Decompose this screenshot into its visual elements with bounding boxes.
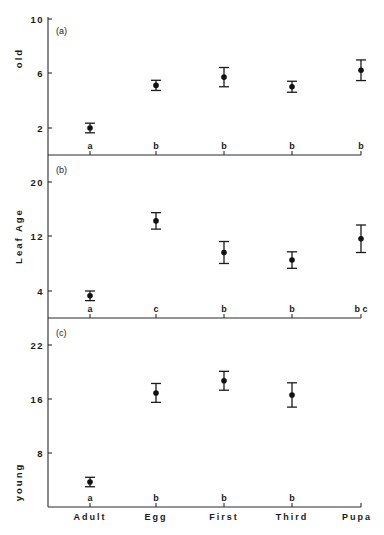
mean-marker xyxy=(153,83,159,89)
x-category-label: Egg xyxy=(145,512,168,522)
panel-b: 41220(b)Leaf Ageacbbb c xyxy=(13,155,368,318)
x-category-label: Adult xyxy=(74,512,107,522)
y-axis-title: young xyxy=(13,463,24,502)
x-axis-category-labels: AdultEggFirstThirdPupa xyxy=(74,512,373,522)
significance-letter: a xyxy=(87,304,93,314)
y-tick-label: 20 xyxy=(30,177,44,188)
mean-marker xyxy=(289,392,295,398)
y-tick-label: 8 xyxy=(37,448,44,459)
data-point xyxy=(219,371,229,390)
y-tick-label: 4 xyxy=(37,286,44,297)
data-point xyxy=(356,225,366,253)
mean-marker xyxy=(289,84,295,90)
significance-letter: b xyxy=(153,493,159,503)
panel-c: 81622(c)youngabbb xyxy=(13,318,361,507)
significance-letter: b xyxy=(221,141,227,151)
y-tick-label: 10 xyxy=(30,14,44,25)
mean-marker xyxy=(221,378,227,384)
data-point xyxy=(151,213,161,230)
data-point xyxy=(85,123,95,133)
mean-marker xyxy=(153,390,159,396)
mean-marker xyxy=(153,218,159,224)
x-category-label: Third xyxy=(276,512,309,522)
y-tick-label: 22 xyxy=(30,340,44,351)
significance-letter: b xyxy=(358,141,364,151)
data-point xyxy=(85,477,95,486)
y-tick-label: 12 xyxy=(30,231,44,242)
data-point xyxy=(151,80,161,90)
significance-letter: b xyxy=(221,493,227,503)
data-point xyxy=(287,383,297,407)
panel-label: (a) xyxy=(56,26,67,36)
y-tick-label: 6 xyxy=(37,68,44,79)
data-point xyxy=(287,81,297,92)
panel-label: (b) xyxy=(56,165,67,175)
significance-letter: c xyxy=(153,304,158,314)
significance-letter: b xyxy=(221,304,227,314)
data-point xyxy=(287,252,297,269)
mean-marker xyxy=(358,236,364,242)
data-point xyxy=(85,291,95,301)
panel-label: (c) xyxy=(56,328,67,338)
significance-letter: b xyxy=(289,493,295,503)
data-point xyxy=(151,383,161,402)
mean-marker xyxy=(87,125,93,131)
y-tick-label: 16 xyxy=(30,394,44,405)
mean-marker xyxy=(221,74,227,80)
mean-marker xyxy=(289,257,295,263)
significance-letter: a xyxy=(87,493,93,503)
significance-letter: b xyxy=(289,304,295,314)
significance-letter: b xyxy=(289,141,295,151)
significance-letter: b xyxy=(153,141,159,151)
mean-marker xyxy=(358,67,364,73)
figure: 2610(a)oldabbbb41220(b)Leaf Ageacbbb c81… xyxy=(0,0,384,535)
mean-marker xyxy=(87,479,93,485)
x-category-label: First xyxy=(209,512,239,522)
y-axis-title: old xyxy=(13,48,24,68)
y-tick-label: 2 xyxy=(37,123,44,134)
data-point xyxy=(356,60,366,81)
mean-marker xyxy=(221,250,227,256)
panel-a: 2610(a)oldabbbb xyxy=(13,14,366,156)
x-category-label: Pupa xyxy=(342,512,372,522)
y-axis-title: Leaf Age xyxy=(13,208,24,264)
data-point xyxy=(219,242,229,264)
significance-letter: a xyxy=(87,141,93,151)
mean-marker xyxy=(87,293,93,299)
data-point xyxy=(219,68,229,87)
significance-letter: b c xyxy=(354,304,367,314)
